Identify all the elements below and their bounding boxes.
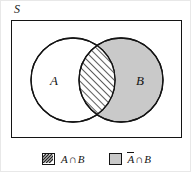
- venn-circles: A B: [11, 20, 182, 138]
- legend-2-right-operand: B: [144, 153, 151, 165]
- legend-2-left-operand: A: [128, 154, 135, 165]
- legend-1-right-operand: B: [78, 153, 85, 165]
- legend-1-operator: ∩: [68, 153, 78, 165]
- legend-label-a-complement-intersect-b: A∩B: [128, 154, 151, 165]
- set-b-text-label: B: [136, 73, 144, 88]
- legend-1-left-operand: A: [61, 153, 68, 165]
- legend-label-a-intersect-b: A∩B: [61, 154, 84, 165]
- venn-diagram-figure: S A B: [0, 0, 191, 172]
- legend: A∩B A∩B: [1, 147, 191, 171]
- gray-swatch-icon: [109, 153, 122, 165]
- legend-2-operator: ∩: [134, 153, 144, 165]
- set-a-text-label: A: [49, 73, 58, 88]
- legend-item-a-complement-intersect-b: A∩B: [109, 153, 151, 165]
- legend-item-a-intersect-b: A∩B: [42, 153, 84, 165]
- universe-set-label: S: [14, 3, 20, 15]
- hatched-swatch-icon: [42, 153, 55, 165]
